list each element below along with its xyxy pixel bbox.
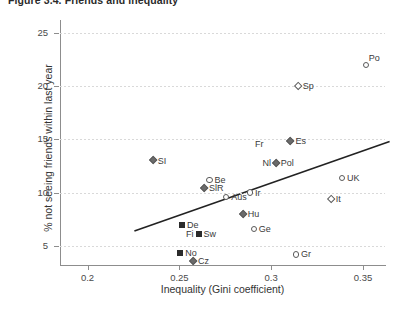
x-tick: [88, 265, 89, 270]
x-axis-title: Inequality (Gini coefficient): [60, 283, 385, 295]
plot-area: 5101520250.20.250.30.35SIBeSlRAusHuDeSwF…: [60, 20, 385, 265]
point-label: SlR: [209, 184, 224, 193]
marker-circle-open-icon: [206, 177, 212, 183]
marker-circle-open-icon: [247, 189, 253, 195]
x-tick-label: 0.35: [343, 272, 383, 283]
point-label: Nl: [262, 159, 271, 168]
marker-square-fill-icon: [196, 231, 202, 237]
gridline-y: [60, 86, 385, 87]
point-label: Fi: [186, 230, 194, 239]
gridline-y: [60, 246, 385, 247]
point-label: Aus: [231, 193, 247, 202]
figure-scatter-friends-inequality: Figure 3.4. Friends and inequality 51015…: [0, 0, 412, 313]
y-tick: [54, 139, 59, 140]
y-tick: [54, 33, 59, 34]
trend-line: [60, 20, 385, 265]
point-label: Ge: [259, 225, 271, 234]
gridline-y: [60, 33, 385, 34]
point-label: It: [336, 195, 341, 204]
marker-circle-open-icon: [251, 226, 257, 232]
marker-circle-open-icon: [339, 175, 345, 181]
point-label: Ir: [255, 189, 261, 198]
y-tick: [54, 86, 59, 87]
y-axis-title: % not seeing friends within last year: [42, 38, 54, 258]
point-label: SI: [158, 157, 167, 166]
point-label: Pol: [281, 159, 294, 168]
x-tick-label: 0.25: [159, 272, 199, 283]
point-label: UK: [347, 174, 360, 183]
point-label: Fr: [255, 140, 264, 149]
x-tick: [271, 265, 272, 270]
y-tick: [54, 193, 59, 194]
point-label: Sw: [204, 230, 217, 239]
marker-square-fill-icon: [179, 222, 185, 228]
point-label: Gr: [301, 250, 311, 259]
x-tick: [179, 265, 180, 270]
point-label: Es: [295, 137, 306, 146]
point-label: Sp: [303, 82, 314, 91]
x-tick: [363, 265, 364, 270]
point-label: Cz: [198, 257, 209, 266]
y-tick-label: 25: [22, 27, 48, 38]
figure-title: Figure 3.4. Friends and inequality: [8, 0, 338, 7]
marker-circle-open-icon: [293, 251, 299, 257]
point-label: Po: [369, 54, 380, 63]
x-tick-label: 0.3: [251, 272, 291, 283]
marker-square-fill-icon: [177, 250, 183, 256]
point-label: Hu: [248, 210, 260, 219]
gridline-y: [60, 139, 385, 140]
y-tick: [54, 246, 59, 247]
x-tick-label: 0.2: [68, 272, 108, 283]
